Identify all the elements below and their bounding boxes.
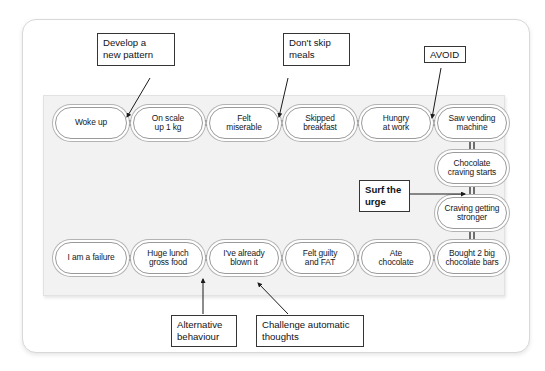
chain-node-label: Woke up [75,118,107,127]
chain-node-woke-up[interactable]: Woke up [55,107,127,139]
chain-node-label: Hungryat work [383,114,409,133]
chain-node-label: Chocolatecraving starts [448,159,496,178]
chain-node-i-am-a-failure[interactable]: I am a failure [55,242,127,274]
chain-node-already-blown-it[interactable]: I've alreadyblown it [209,242,279,274]
chain-node-skipped-breakfast[interactable]: Skippedbreakfast [285,107,355,139]
chain-node-label: Bought 2 bigchocolate bars [445,249,498,268]
chain-node-felt-miserable[interactable]: Feltmiserable [209,107,279,139]
chain-node-saw-vending-machine[interactable]: Saw vendingmachine [437,107,507,139]
chain-node-label: On scaleup 1 kg [152,114,184,133]
callout-alternative-behaviour[interactable]: Alternative behaviour [171,315,237,347]
chain-node-craving-getting-stronger[interactable]: Craving gettingstronger [437,197,507,229]
chain-node-felt-guilty[interactable]: Felt guiltyand FAT [285,242,355,274]
chain-node-label: Atechocolate [379,249,414,268]
chain-node-bought-2-big-bars[interactable]: Bought 2 bigchocolate bars [437,242,507,274]
chain-node-label: Saw vendingmachine [449,114,496,133]
callout-dont-skip-meals[interactable]: Don't skip meals [283,33,350,66]
diagram-stage: Woke up On scaleup 1 kg Feltmiserable Sk… [0,0,545,371]
chain-node-huge-lunch[interactable]: Huge lunchgross food [133,242,203,274]
chain-node-label: Skippedbreakfast [303,114,337,133]
chain-node-label: I've alreadyblown it [223,249,264,268]
chain-node-hungry-at-work[interactable]: Hungryat work [361,107,431,139]
chain-node-label: Feltmiserable [226,114,261,133]
chain-node-ate-chocolate[interactable]: Atechocolate [361,242,431,274]
chain-node-chocolate-craving-starts[interactable]: Chocolatecraving starts [437,152,507,184]
chain-node-on-scale[interactable]: On scaleup 1 kg [133,107,203,139]
callout-avoid[interactable]: AVOID [424,46,466,63]
callout-develop-a-new-pattern[interactable]: Develop a new pattern [97,33,175,66]
callout-challenge-automatic-thoughts[interactable]: Challenge automatic thoughts [256,315,364,347]
chain-node-label: Felt guiltyand FAT [303,249,338,268]
chain-node-label: Craving gettingstronger [445,204,500,223]
chain-node-label: Huge lunchgross food [147,249,188,268]
callout-surf-the-urge[interactable]: Surf the urge [359,180,410,212]
chain-node-label: I am a failure [67,253,114,262]
